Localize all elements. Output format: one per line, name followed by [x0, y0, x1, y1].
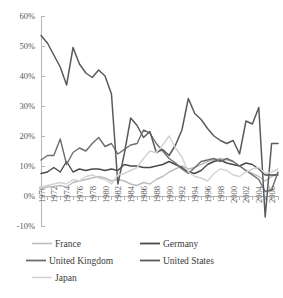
x-tick-label: 1972	[49, 186, 59, 203]
x-tick-label: 1982	[113, 186, 123, 203]
x-tick-label: 1992	[177, 186, 187, 203]
x-tick-label: 1988	[152, 186, 162, 203]
x-tick-label: 1998	[216, 186, 226, 203]
x-tick-label: 2002	[241, 186, 251, 203]
line-chart-figure: 60%50%40%30%20%10%0%-10% 197019721974197…	[0, 0, 283, 298]
x-tick-label: 1974	[62, 185, 72, 203]
y-tick-label: 30%	[19, 101, 35, 111]
y-tick-label: 60%	[19, 11, 35, 21]
legend-label-japan: Japan	[55, 273, 77, 283]
x-tick-label: 2000	[229, 186, 239, 203]
x-tick-label: 1996	[203, 186, 213, 203]
x-tick-label: 1990	[165, 186, 175, 203]
legend-label-france: France	[55, 239, 81, 249]
y-tick-label: 50%	[19, 41, 35, 51]
legend-label-united-states: United States	[163, 256, 214, 266]
x-tick-label: 1984	[126, 185, 136, 203]
x-tick-label: 1994	[190, 185, 200, 203]
series-line-france	[41, 159, 278, 189]
y-tick-label: 20%	[19, 131, 35, 141]
series-line-japan	[41, 136, 278, 187]
x-tick-label: 1976	[75, 186, 85, 203]
x-axis: 1970197219741976197819801982198419861988…	[37, 185, 279, 203]
legend-label-united-kingdom: United Kingdom	[49, 256, 114, 266]
y-tick-label: 40%	[19, 71, 35, 81]
legend-label-germany: Germany	[163, 239, 199, 249]
x-tick-label: 1986	[139, 186, 149, 203]
y-tick-label: -10%	[17, 221, 35, 231]
x-tick-label: 1980	[101, 186, 111, 203]
y-tick-label: 10%	[19, 161, 35, 171]
chart-legend: FranceGermanyUnited KingdomUnited States…	[26, 239, 214, 283]
y-tick-label: 0%	[24, 191, 35, 201]
x-tick-label: 1978	[88, 186, 98, 203]
chart-canvas: 60%50%40%30%20%10%0%-10% 197019721974197…	[0, 0, 283, 298]
